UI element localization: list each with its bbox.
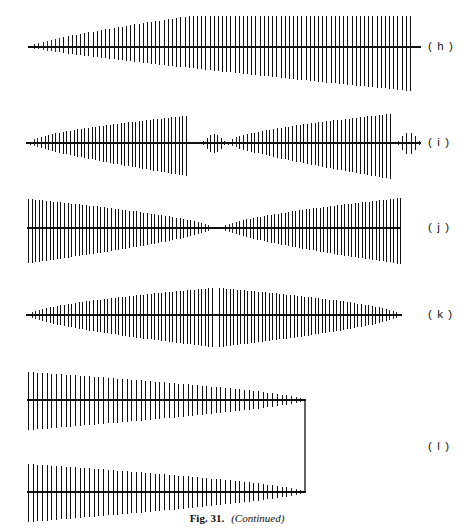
bracket-connector-l <box>303 400 305 492</box>
panel-label-l: ( l ) <box>428 440 450 452</box>
waveform-plot-canvas <box>0 0 474 532</box>
figure-caption: Fig. 31.(Continued) <box>0 512 474 524</box>
panel-label-h: ( h ) <box>428 40 454 52</box>
figure-container: ( h ) ( i ) ( j ) ( k ) ( l ) Fig. 31.(C… <box>0 0 474 532</box>
panel-label-i: ( i ) <box>428 136 450 148</box>
figure-caption-note: (Continued) <box>231 512 284 524</box>
panel-label-j: ( j ) <box>428 221 450 233</box>
figure-caption-number: Fig. 31. <box>190 512 225 524</box>
panel-label-k: ( k ) <box>428 308 453 320</box>
